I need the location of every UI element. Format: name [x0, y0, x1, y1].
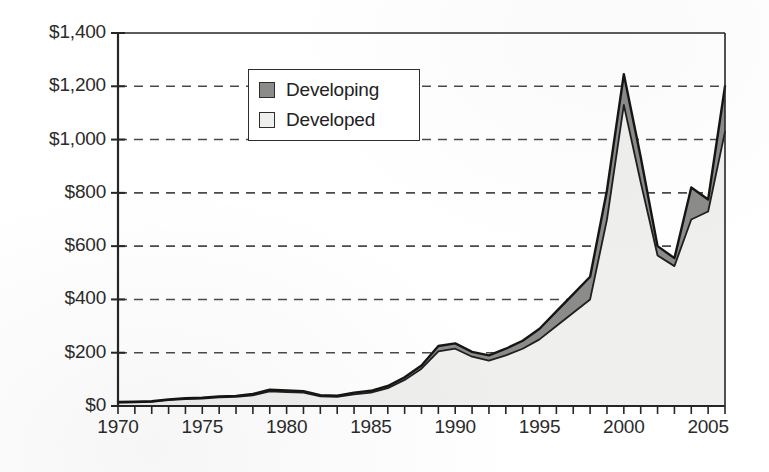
y-axis-tick-label: $1,200: [49, 74, 106, 96]
x-axis-tick-label: 2005: [663, 416, 753, 438]
y-axis-tick-label: $1,400: [49, 21, 106, 43]
x-axis-tick-label: 1990: [410, 416, 500, 438]
y-axis-tick-label: $800: [65, 181, 106, 203]
legend-label-developed: Developed: [286, 109, 375, 131]
x-axis-tick-label: 1995: [495, 416, 585, 438]
legend-label-developing: Developing: [286, 79, 379, 101]
legend-swatch-developed-icon: [259, 112, 275, 128]
x-axis-tick-label: 2000: [579, 416, 669, 438]
y-axis-tick-label: $0: [85, 394, 106, 416]
x-axis-tick-label: 1970: [73, 416, 163, 438]
legend-item-developed: Developed: [259, 105, 407, 135]
x-axis-tick-label: 1980: [242, 416, 332, 438]
x-axis-tick-label: 1985: [326, 416, 416, 438]
y-axis-tick-label: $600: [65, 234, 106, 256]
x-axis-tick-label: 1975: [157, 416, 247, 438]
legend-item-developing: Developing: [259, 75, 407, 105]
y-axis-tick-label: $200: [65, 341, 106, 363]
y-axis-tick-label: $1,000: [49, 128, 106, 150]
legend-swatch-developing-icon: [259, 82, 275, 98]
y-axis-tick-label: $400: [65, 287, 106, 309]
chart-legend: Developing Developed: [248, 69, 420, 141]
